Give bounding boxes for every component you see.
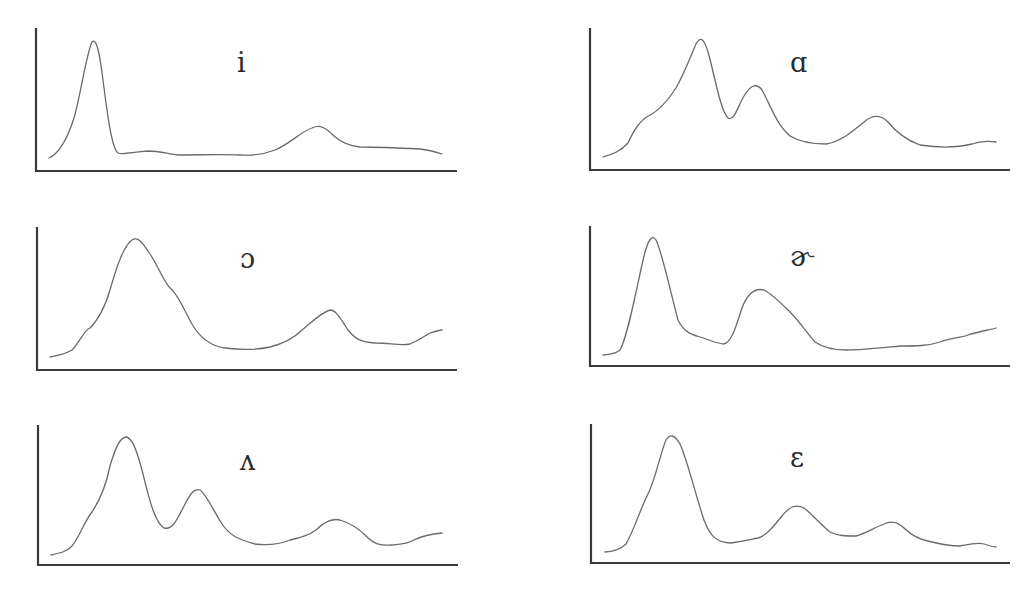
spectra-figure: i ɑ ɔ ɚ ʌ ɛ — [0, 0, 1033, 595]
panel-label: ɑ — [790, 47, 807, 78]
panel-label: i — [237, 47, 246, 78]
panel-label: ɛ — [790, 442, 804, 473]
panel-o-open: ɔ — [37, 227, 457, 370]
panel-label: ɚ — [790, 241, 815, 272]
panel-schwar: ɚ — [590, 226, 1010, 366]
panel-epsilon: ɛ — [591, 424, 1010, 563]
panel-label: ʌ — [239, 445, 256, 476]
panel-wedge: ʌ — [38, 425, 458, 565]
axes — [36, 28, 457, 171]
panel-a: ɑ — [590, 28, 1010, 170]
panel-label: ɔ — [240, 243, 255, 274]
panel-i: i — [36, 28, 457, 171]
